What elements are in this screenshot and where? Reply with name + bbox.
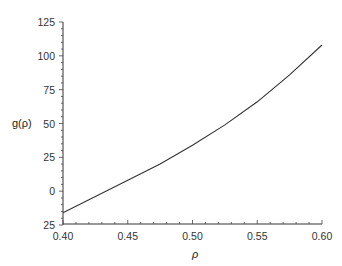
x-axis: 0.400.450.500.550.60: [53, 220, 333, 242]
y-axis: 125100755025025: [37, 16, 63, 231]
y-axis-label: g(ρ): [12, 117, 32, 129]
y-tick-label: 100: [37, 50, 55, 62]
y-tick-label: 0: [49, 185, 55, 197]
line-chart: 125100755025025 0.400.450.500.550.60 g(ρ…: [0, 0, 342, 266]
y-tick-label: 75: [43, 84, 55, 96]
y-tick-label: 25: [43, 151, 55, 163]
x-tick-label: 0.50: [182, 230, 203, 242]
x-tick-label: 0.45: [118, 230, 139, 242]
x-tick-label: 0.55: [247, 230, 268, 242]
x-tick-label: 0.60: [312, 230, 333, 242]
y-tick-label: 50: [43, 118, 55, 130]
x-tick-label: 0.40: [53, 230, 74, 242]
data-line-g-rho: [63, 45, 322, 213]
y-tick-label: 125: [37, 16, 55, 28]
x-axis-label: ρ: [191, 248, 198, 260]
